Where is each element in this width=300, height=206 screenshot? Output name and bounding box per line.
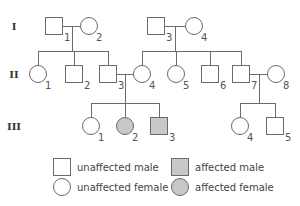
individual-number: 1 [45, 80, 51, 91]
unaffected-male-i-3 [148, 18, 165, 35]
unaffected-female-ii-8 [268, 66, 285, 83]
individual-number: 4 [247, 132, 253, 143]
unaffected-female-iii-1 [83, 118, 100, 135]
unaffected-female-i-4 [186, 18, 203, 35]
legend-label: unaffected female [77, 182, 168, 193]
legend-label: affected female [195, 182, 274, 193]
unaffected-female-ii-1 [30, 66, 47, 83]
generation-label: II [9, 69, 19, 80]
individual-number: 2 [96, 32, 102, 43]
unaffected-male-iii-5 [267, 118, 284, 135]
individual-number: 1 [64, 32, 70, 43]
legend: unaffected maleunaffected femaleaffected… [54, 159, 274, 196]
individual-number: 5 [285, 132, 291, 143]
unaffected-female-legend-icon [54, 179, 71, 196]
unaffected-male-legend-icon [54, 159, 71, 176]
individual-number: 4 [201, 32, 207, 43]
pedigree-chart: IIIIII 12341234567812345 unaffected male… [0, 0, 300, 206]
unaffected-female-ii-5 [168, 66, 185, 83]
generation-label: I [12, 21, 17, 32]
affected-female-iii-2 [117, 118, 134, 135]
individual-number: 3 [166, 32, 172, 43]
individual-number: 3 [118, 80, 124, 91]
unaffected-male-ii-2 [66, 66, 83, 83]
legend-label: unaffected male [77, 162, 159, 173]
unaffected-female-ii-4 [134, 66, 151, 83]
unaffected-male-ii-3 [100, 66, 117, 83]
unaffected-male-ii-6 [202, 66, 219, 83]
generation-labels: IIIIII [7, 21, 21, 132]
unaffected-male-ii-7 [233, 66, 250, 83]
individual-number: 2 [84, 80, 90, 91]
individual-number: 7 [251, 80, 257, 91]
individuals: 12341234567812345 [30, 18, 292, 144]
individual-number: 2 [132, 132, 138, 143]
affected-male-legend-icon [172, 159, 189, 176]
individual-number: 8 [283, 80, 289, 91]
individual-number: 1 [98, 132, 104, 143]
generation-label: III [7, 121, 21, 132]
affected-female-legend-icon [172, 179, 189, 196]
unaffected-female-iii-4 [232, 118, 249, 135]
individual-number: 3 [169, 132, 175, 143]
unaffected-male-i-1 [46, 18, 63, 35]
individual-number: 4 [149, 80, 155, 91]
individual-number: 5 [183, 80, 189, 91]
legend-label: affected male [195, 162, 264, 173]
individual-number: 6 [220, 80, 226, 91]
affected-male-iii-3 [151, 118, 168, 135]
unaffected-female-i-2 [81, 18, 98, 35]
